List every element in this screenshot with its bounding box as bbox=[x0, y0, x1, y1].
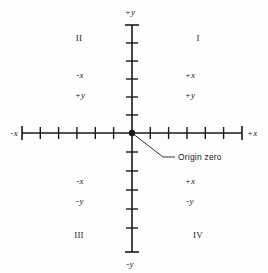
quadrant-4-sign-y: -y bbox=[186, 196, 193, 206]
origin-zero-label: Origin zero bbox=[178, 152, 222, 162]
coordinate-plane-diagram: +y -y -x +x Origin zero I +x +y II -x +y… bbox=[0, 0, 268, 273]
quadrant-4-numeral: IV bbox=[193, 230, 203, 240]
quadrant-3-sign-x: -x bbox=[76, 176, 83, 186]
quadrant-4-sign-x: +x bbox=[185, 176, 195, 186]
quadrant-1-numeral: I bbox=[196, 33, 199, 43]
quadrant-3-sign-y: -y bbox=[76, 196, 83, 206]
x-axis-positive-label: +x bbox=[247, 128, 257, 138]
quadrant-2-sign-y: +y bbox=[75, 90, 85, 100]
quadrant-3-numeral: III bbox=[74, 230, 84, 240]
y-axis-positive-label: +y bbox=[125, 7, 135, 17]
x-axis-negative-label: -x bbox=[11, 128, 18, 138]
axes-svg bbox=[0, 0, 268, 273]
quadrant-2-sign-x: -x bbox=[76, 70, 83, 80]
quadrant-2-numeral: II bbox=[76, 33, 82, 43]
quadrant-1-sign-y: +y bbox=[185, 90, 195, 100]
y-axis-negative-label: -y bbox=[126, 259, 133, 269]
quadrant-1-sign-x: +x bbox=[185, 70, 195, 80]
